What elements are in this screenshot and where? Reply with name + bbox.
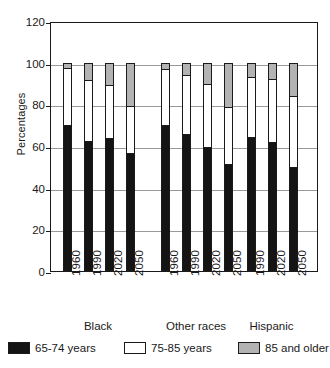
bar-segment-old: [204, 64, 211, 86]
y-axis-tick-label: 120: [9, 17, 45, 29]
group-label-black: Black: [53, 320, 143, 332]
bar-segment-old: [106, 64, 113, 87]
x-axis-label-2020: 2020: [275, 250, 287, 276]
legend-label-75-85: 75-85 years: [151, 342, 212, 354]
bar-segment-mid: [127, 107, 134, 154]
bar-other-races-2050: [224, 63, 233, 271]
x-axis-label-1990: 1990: [91, 250, 103, 276]
group-label-hispanic: Hispanic: [227, 320, 317, 332]
x-axis-label-1960: 1960: [70, 250, 82, 276]
x-axis-label-2020: 2020: [210, 250, 222, 276]
bar-black-2020: [105, 63, 114, 271]
bar-segment-mid: [269, 80, 276, 143]
bar-segment-mid: [290, 97, 297, 168]
bar-segment-old: [225, 64, 232, 108]
x-axis-label-2020: 2020: [112, 250, 124, 276]
legend-item-75-85: 75-85 years: [124, 342, 212, 354]
legend-label-85-older: 85 and older: [265, 342, 329, 354]
bar-segment-old: [290, 64, 297, 97]
bar-segment-mid: [248, 78, 255, 138]
bars-layer: [51, 23, 317, 271]
y-axis-tick-label: 0: [9, 267, 45, 279]
bar-segment-old: [269, 64, 276, 81]
legend-item-65-74: 65-74 years: [8, 342, 96, 354]
y-axis-title: Percentages: [15, 79, 27, 169]
bar-segment-mid: [106, 86, 113, 139]
bar-black-2050: [126, 63, 135, 271]
y-axis-tick-label: 80: [9, 100, 45, 112]
bar-segment-mid: [85, 81, 92, 142]
x-axis-label-2050: 2050: [231, 250, 243, 276]
bar-hispanic-2050: [289, 63, 298, 271]
stacked-bar-chart: Percentages 020406080100120 196019902020…: [0, 0, 330, 368]
y-axis-tick-label: 60: [9, 142, 45, 154]
bar-segment-mid: [162, 70, 169, 126]
y-axis-tick-label: 20: [9, 225, 45, 237]
legend-label-65-74: 65-74 years: [35, 342, 96, 354]
bar-segment-young: [64, 126, 71, 270]
bar-segment-mid: [183, 76, 190, 135]
bar-black-1960: [63, 63, 72, 271]
x-axis-label-2050: 2050: [296, 250, 308, 276]
bar-black-1990: [84, 63, 93, 271]
x-axis-label-1990: 1990: [254, 250, 266, 276]
bar-segment-mid: [225, 108, 232, 165]
bar-segment-old: [248, 64, 255, 78]
bar-segment-old: [85, 64, 92, 82]
legend-swatch-75-85-icon: [124, 342, 146, 354]
x-axis-label-1990: 1990: [189, 250, 201, 276]
y-axis-tick-label: 100: [9, 59, 45, 71]
bar-segment-old: [183, 64, 190, 76]
bar-segment-young: [162, 126, 169, 270]
x-axis-label-2050: 2050: [133, 250, 145, 276]
plot-area: 020406080100120: [50, 22, 318, 272]
legend: 65-74 years 75-85 years 85 and older: [8, 342, 326, 362]
legend-swatch-65-74-icon: [8, 342, 30, 354]
bar-hispanic-1990: [247, 63, 256, 271]
y-axis-tick: [46, 273, 51, 274]
bar-other-races-1960: [161, 63, 170, 271]
bar-segment-old: [127, 64, 134, 107]
legend-swatch-85-older-icon: [238, 342, 260, 354]
bar-hispanic-2020: [268, 63, 277, 271]
bar-other-races-1990: [182, 63, 191, 271]
x-axis-label-1960: 1960: [168, 250, 180, 276]
bar-other-races-2020: [203, 63, 212, 271]
y-axis-tick-label: 40: [9, 184, 45, 196]
legend-item-85-older: 85 and older: [238, 342, 329, 354]
bar-segment-mid: [204, 85, 211, 148]
bar-segment-mid: [64, 69, 71, 126]
